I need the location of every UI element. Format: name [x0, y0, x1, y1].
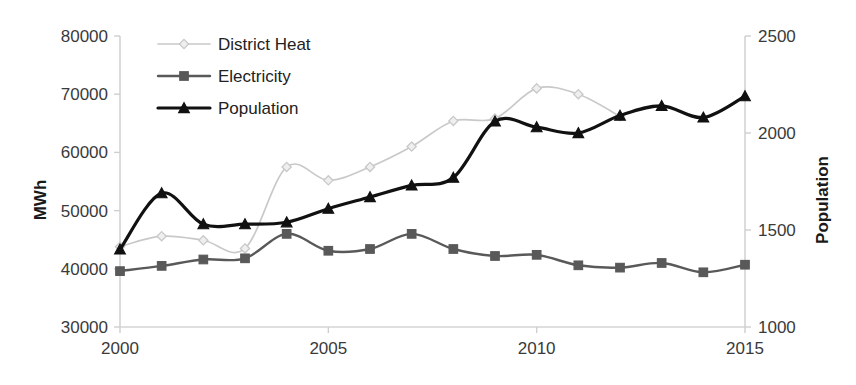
series-layer	[115, 84, 751, 277]
data-point-electricity	[180, 72, 189, 81]
data-point-district-heat	[532, 84, 541, 93]
chart-legend: District HeatElectricityPopulation	[158, 35, 311, 118]
y2-tick-label: 1000	[758, 318, 796, 337]
y-axis-ticks: 300004000050000600007000080000	[61, 27, 120, 337]
data-point-district-heat	[365, 162, 374, 171]
legend-label-district-heat: District Heat	[218, 35, 311, 54]
data-point-population	[740, 91, 751, 101]
data-point-electricity	[324, 246, 333, 255]
data-point-district-heat	[574, 90, 583, 99]
series-population	[115, 91, 751, 254]
data-point-electricity	[532, 251, 541, 260]
data-point-electricity	[157, 262, 166, 271]
data-point-district-heat	[449, 116, 458, 125]
series-electricity	[116, 230, 750, 277]
data-point-electricity	[657, 259, 666, 268]
data-point-district-heat	[179, 39, 188, 48]
legend-label-population: Population	[218, 99, 298, 118]
line-chart: 300004000050000600007000080000 100015002…	[0, 0, 856, 385]
y-tick-label: 40000	[61, 260, 108, 279]
data-point-electricity	[574, 261, 583, 270]
data-point-electricity	[241, 254, 250, 263]
data-point-electricity	[741, 260, 750, 269]
data-point-electricity	[282, 230, 291, 239]
y-tick-label: 70000	[61, 85, 108, 104]
y2-tick-label: 2500	[758, 27, 796, 46]
data-point-district-heat	[199, 236, 208, 245]
x-tick-label: 2005	[309, 339, 347, 358]
data-point-electricity	[407, 230, 416, 239]
axis-lines	[120, 36, 745, 327]
y-tick-label: 30000	[61, 318, 108, 337]
data-point-electricity	[199, 255, 208, 264]
x-axis-ticks: 2000200520102015	[101, 327, 764, 358]
legend-item-district-heat: District Heat	[158, 35, 311, 54]
y2-axis-title: Population	[813, 156, 832, 244]
legend-label-electricity: Electricity	[218, 67, 291, 86]
series-line-population	[120, 96, 745, 249]
data-point-electricity	[449, 245, 458, 254]
data-point-electricity	[699, 268, 708, 277]
y-tick-label: 80000	[61, 27, 108, 46]
x-tick-label: 2000	[101, 339, 139, 358]
data-point-electricity	[616, 263, 625, 272]
series-line-electricity	[120, 234, 745, 272]
chart-container: 300004000050000600007000080000 100015002…	[0, 0, 856, 385]
y2-axis-ticks: 1000150020002500	[745, 27, 796, 337]
data-point-electricity	[116, 267, 125, 276]
data-point-district-heat	[407, 142, 416, 151]
y-tick-label: 60000	[61, 143, 108, 162]
x-tick-label: 2010	[518, 339, 556, 358]
data-point-electricity	[366, 245, 375, 254]
data-point-district-heat	[157, 232, 166, 241]
legend-item-electricity: Electricity	[158, 67, 291, 86]
y2-tick-label: 2000	[758, 124, 796, 143]
data-point-district-heat	[324, 176, 333, 185]
x-tick-label: 2015	[726, 339, 764, 358]
y2-tick-label: 1500	[758, 221, 796, 240]
data-point-electricity	[491, 252, 500, 261]
y-tick-label: 50000	[61, 202, 108, 221]
y-axis-title: MWh	[31, 180, 50, 221]
legend-item-population: Population	[158, 99, 298, 118]
